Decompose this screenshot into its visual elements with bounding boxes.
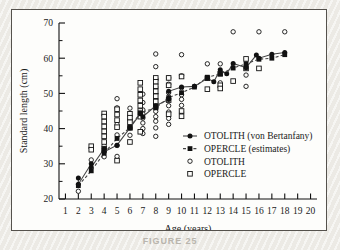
x-tick-label: 15: [241, 206, 251, 216]
y-tick-label: 60: [44, 54, 54, 64]
data-point: [115, 136, 120, 141]
data-point: [218, 86, 223, 91]
data-point: [179, 85, 184, 90]
data-point: [154, 134, 158, 138]
legend-label: OPERCLE: [204, 169, 246, 179]
data-point: [128, 106, 132, 110]
data-point: [154, 52, 158, 56]
data-point: [102, 119, 107, 124]
y-tick-label: 40: [44, 124, 54, 134]
data-point: [166, 76, 171, 81]
x-tick-label: 13: [216, 206, 226, 216]
data-point: [153, 84, 158, 89]
data-point: [138, 93, 143, 98]
growth-scatter-chart: 2030405060701234567891011121314151617181…: [12, 10, 326, 230]
data-point: [115, 143, 120, 148]
x-tick-label: 2: [76, 206, 81, 216]
data-point: [138, 81, 143, 86]
data-point: [153, 99, 158, 104]
data-point: [166, 104, 170, 108]
legend-marker-filled-circle: [188, 134, 193, 139]
y-tick-label: 20: [44, 194, 54, 204]
x-tick-label: 3: [89, 206, 94, 216]
legend-marker-filled-square: [188, 146, 193, 151]
data-point: [218, 67, 223, 72]
y-tick-label: 70: [44, 18, 54, 28]
x-tick-label: 17: [267, 206, 277, 216]
x-tick-label: 18: [280, 206, 290, 216]
data-point: [244, 61, 249, 66]
data-point: [154, 119, 158, 123]
data-point: [166, 122, 170, 126]
data-point: [115, 158, 120, 163]
data-point: [102, 114, 107, 119]
data-point: [257, 57, 262, 62]
data-point: [115, 96, 119, 100]
y-tick-label: 50: [44, 89, 54, 99]
x-tick-label: 19: [293, 206, 303, 216]
data-point: [179, 74, 184, 79]
figure-caption: FIGURE 25: [0, 234, 340, 248]
x-tick-label: 16: [254, 206, 264, 216]
data-point: [231, 61, 236, 66]
data-point: [166, 112, 171, 117]
data-point: [179, 103, 183, 107]
data-point: [166, 83, 171, 88]
legend-marker-open-square: [188, 172, 193, 177]
data-point: [231, 79, 236, 84]
data-point: [76, 189, 80, 193]
data-point: [128, 120, 133, 125]
data-point: [153, 89, 158, 94]
figure-panel: 2030405060701234567891011121314151617181…: [11, 9, 327, 231]
data-point: [269, 56, 274, 61]
data-point: [115, 118, 120, 123]
data-point: [283, 30, 287, 34]
data-point: [244, 73, 248, 77]
data-point: [192, 85, 197, 90]
x-tick-label: 6: [128, 206, 133, 216]
data-point: [115, 125, 120, 130]
x-tick-label: 10: [177, 206, 187, 216]
data-point: [141, 121, 145, 125]
legend-label: OPERCLE (estimates): [204, 144, 290, 155]
data-point: [89, 168, 94, 173]
data-point: [153, 105, 158, 110]
x-tick-label: 20: [306, 206, 316, 216]
data-point: [76, 183, 81, 188]
data-point: [205, 62, 209, 66]
data-point: [282, 52, 287, 57]
data-point: [211, 79, 216, 84]
data-point: [179, 114, 184, 119]
data-point: [153, 94, 158, 99]
data-point: [154, 126, 158, 130]
x-tick-label: 4: [102, 206, 107, 216]
data-point: [257, 66, 262, 71]
data-point: [138, 87, 143, 92]
data-point: [166, 95, 171, 100]
legend-label: OTOLITH (von Bertanfany): [204, 131, 313, 142]
data-point: [224, 71, 229, 76]
data-point: [102, 151, 107, 156]
x-tick-label: 11: [190, 206, 199, 216]
x-tick-label: 7: [140, 206, 145, 216]
data-point: [179, 52, 183, 56]
data-point: [179, 109, 184, 114]
data-point: [128, 133, 132, 137]
data-point: [128, 125, 133, 130]
legend-label: OTOLITH: [204, 157, 245, 167]
y-axis-title: Standard length (cm): [18, 69, 30, 153]
x-tick-label: 5: [115, 206, 120, 216]
data-point: [138, 110, 143, 115]
data-point: [154, 114, 158, 118]
legend-marker-open-circle: [188, 159, 192, 163]
data-point: [89, 147, 94, 152]
data-point: [179, 97, 183, 101]
data-point: [128, 115, 133, 120]
data-point: [218, 62, 222, 66]
data-point: [153, 79, 158, 84]
y-tick-label: 30: [44, 159, 54, 169]
data-point: [76, 175, 81, 180]
data-point: [179, 90, 184, 95]
data-point: [231, 30, 235, 34]
x-tick-label: 8: [153, 206, 158, 216]
